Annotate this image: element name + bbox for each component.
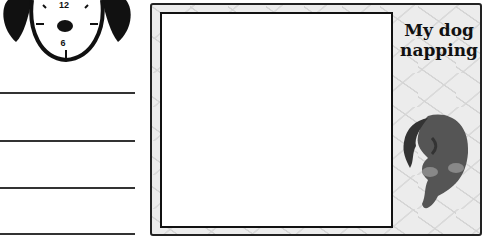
left-ear: [3, 0, 32, 42]
writing-line[interactable]: [0, 92, 135, 94]
caption-line-2: napping: [398, 40, 480, 60]
clock-number-12: 12: [59, 0, 69, 10]
writing-line[interactable]: [0, 233, 135, 235]
photo-box[interactable]: [160, 12, 393, 228]
writing-line[interactable]: [0, 187, 135, 189]
clock-number-6: 6: [60, 38, 65, 48]
frame-caption: My dog napping: [398, 20, 480, 60]
sleeping-dog-icon: [398, 108, 478, 213]
right-ear: [102, 0, 131, 42]
dog-clock-icon: 12 6: [0, 0, 140, 72]
caption-line-1: My dog: [398, 20, 480, 40]
writing-line[interactable]: [0, 140, 135, 142]
nose-icon: [57, 20, 73, 32]
